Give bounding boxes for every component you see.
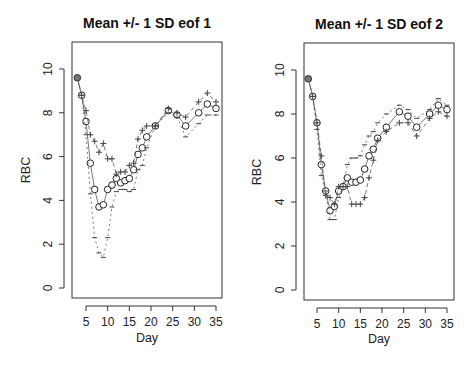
mean-marker [318, 161, 325, 168]
y-tick-label: 0 [41, 284, 55, 291]
mean-marker [444, 106, 451, 113]
plus-marker [96, 149, 102, 155]
plus-marker [92, 138, 98, 144]
y-tick-label: 10 [41, 62, 55, 76]
y-tick-label: 0 [273, 286, 287, 293]
plus-marker [100, 140, 106, 146]
x-tick-label: 25 [397, 317, 411, 331]
plus-marker [357, 201, 363, 207]
series-line [77, 78, 216, 207]
x-axis: 5101520253035 [83, 306, 223, 329]
plot-frame [72, 42, 222, 298]
chart-title: Mean +/- 1 SD eof 2 [315, 16, 443, 32]
mean-marker [413, 124, 420, 131]
data-markers [74, 74, 219, 257]
x-tick-label: 10 [332, 317, 346, 331]
y-tick-label: 6 [41, 153, 55, 160]
x-tick-label: 10 [101, 315, 115, 329]
start-marker [305, 76, 312, 83]
plus-marker [213, 99, 219, 105]
mean-marker [435, 102, 442, 109]
x-tick-label: 35 [440, 317, 454, 331]
x-tick-label: 15 [354, 317, 368, 331]
mean-marker [100, 201, 107, 208]
mean-marker [204, 101, 211, 108]
mean-marker [126, 175, 133, 182]
y-tick-label: 8 [41, 109, 55, 116]
y-tick-label: 2 [41, 241, 55, 248]
chart-canvas: Mean +/- 1 SD eof 1 5101520253035 024681… [0, 0, 472, 366]
mean-marker [213, 105, 220, 112]
data-markers [305, 76, 450, 220]
chart-panel-eof2: Mean +/- 1 SD eof 2 5101520253035 024681… [250, 16, 454, 346]
y-axis-label: RBC [250, 159, 264, 185]
mean-marker [195, 110, 202, 117]
plus-marker [109, 156, 115, 162]
y-tick-label: 10 [273, 63, 287, 77]
plus-marker [366, 175, 372, 181]
plus-marker [405, 120, 411, 126]
x-axis-label: Day [368, 332, 391, 346]
x-tick-label: 35 [209, 315, 223, 329]
plus-marker [444, 113, 450, 119]
mean-marker [91, 186, 98, 193]
mean-marker [109, 182, 116, 189]
x-tick-label: 25 [166, 315, 180, 329]
plus-marker [122, 169, 128, 175]
x-tick-label: 30 [419, 317, 433, 331]
start-marker [74, 74, 81, 81]
series-line [77, 78, 216, 258]
y-tick-label: 4 [41, 197, 55, 204]
x-tick-label: 20 [375, 317, 389, 331]
y-tick-label: 6 [273, 154, 287, 161]
y-axis: 0246810 [41, 62, 64, 291]
series-line [308, 79, 447, 220]
plus-marker [362, 195, 368, 201]
x-axis-label: Day [136, 331, 159, 345]
mean-marker [405, 113, 412, 120]
y-axis: 0246810 [273, 63, 296, 293]
x-axis: 5101520253035 [314, 308, 454, 331]
mean-marker [366, 153, 373, 160]
y-axis-label: RBC [19, 157, 33, 183]
x-tick-label: 5 [314, 317, 321, 331]
x-tick-label: 5 [83, 315, 90, 329]
plus-marker [396, 120, 402, 126]
chart-panel-eof1: Mean +/- 1 SD eof 1 5101520253035 024681… [19, 15, 223, 345]
x-tick-label: 30 [188, 315, 202, 329]
mean-marker [357, 177, 364, 184]
mean-marker [361, 166, 368, 173]
mean-marker [143, 134, 150, 141]
y-tick-label: 2 [273, 242, 287, 249]
x-tick-label: 20 [144, 315, 158, 329]
plus-marker [435, 109, 441, 115]
y-tick-label: 8 [273, 110, 287, 117]
plot-frame [304, 43, 454, 300]
plus-marker [135, 136, 141, 142]
y-tick-label: 4 [273, 198, 287, 205]
plus-marker [414, 133, 420, 139]
chart-title: Mean +/- 1 SD eof 1 [83, 15, 211, 31]
plus-marker [204, 90, 210, 96]
mean-marker [396, 109, 403, 116]
mean-marker [182, 123, 189, 130]
x-tick-label: 15 [123, 315, 137, 329]
